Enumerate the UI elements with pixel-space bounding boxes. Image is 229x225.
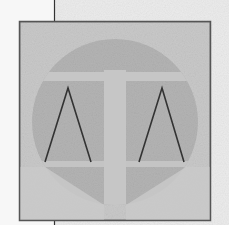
scales-of-justice-icon xyxy=(0,0,229,225)
scales-of-justice-figure xyxy=(0,0,229,225)
central-pillar xyxy=(104,70,126,220)
